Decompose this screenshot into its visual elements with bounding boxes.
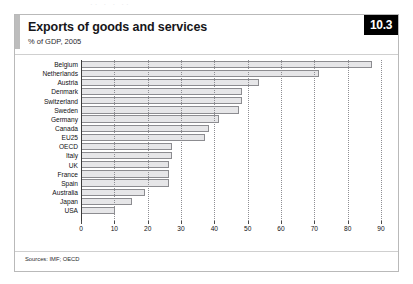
bar-row: [82, 124, 381, 133]
chart-header: Exports of goods and services % of GDP, …: [15, 15, 398, 55]
gridline: [381, 60, 382, 221]
gridline: [114, 60, 115, 221]
tick-mark: [114, 221, 115, 224]
tick-mark: [214, 221, 215, 224]
tick-label: 60: [277, 225, 284, 232]
chart-subtitle: % of GDP, 2005: [28, 37, 81, 46]
category-label: Canada: [15, 124, 81, 133]
source-note: Sources: IMF; OECD: [25, 256, 79, 262]
bar-row: [82, 206, 381, 215]
tick-mark: [381, 221, 382, 224]
bar-row: [82, 78, 381, 87]
bar-row: [82, 151, 381, 160]
bar: [82, 161, 169, 168]
category-axis-labels: BelgiumNetherlandsAustriaDenmarkSwitzerl…: [15, 60, 81, 215]
bar-row: [82, 115, 381, 124]
bar: [82, 70, 319, 77]
bar-row: [82, 87, 381, 96]
tick-label: 40: [211, 225, 218, 232]
page-title: Exports of goods and services: [28, 20, 207, 34]
tick-label: 50: [244, 225, 251, 232]
category-label: Netherlands: [15, 69, 81, 78]
bar-row: [82, 188, 381, 197]
tick-mark: [314, 221, 315, 224]
gridline: [248, 60, 249, 221]
gridline: [148, 60, 149, 221]
tick-label: 0: [79, 225, 83, 232]
category-label: Italy: [15, 151, 81, 160]
category-label: Japan: [15, 197, 81, 206]
chart-footer: Sources: IMF; OECD: [15, 251, 398, 271]
bar: [82, 88, 242, 95]
category-label: Germany: [15, 115, 81, 124]
gridline: [181, 60, 182, 221]
tick-label: 10: [111, 225, 118, 232]
category-label: USA: [15, 206, 81, 215]
chart-figure: Exports of goods and services % of GDP, …: [14, 14, 399, 272]
plot-area: BelgiumNetherlandsAustriaDenmarkSwitzerl…: [15, 55, 398, 240]
tick-label: 80: [344, 225, 351, 232]
figure-number-badge: 10.3: [364, 15, 398, 35]
plot-canvas: [81, 60, 381, 216]
gridline: [314, 60, 315, 221]
gridline: [214, 60, 215, 221]
category-label: France: [15, 170, 81, 179]
category-label: Denmark: [15, 87, 81, 96]
bar-row: [82, 197, 381, 206]
tick-mark: [181, 221, 182, 224]
bar-row: [82, 142, 381, 151]
category-label: OECD: [15, 142, 81, 151]
x-axis-ticks: 0102030405060708090: [81, 221, 381, 235]
tick-label: 90: [377, 225, 384, 232]
top-bleed-text: ·· · · ··: [0, 0, 413, 10]
tick-mark: [248, 221, 249, 224]
category-label: Belgium: [15, 60, 81, 69]
tick-label: 20: [144, 225, 151, 232]
bar: [82, 79, 259, 86]
bar: [82, 97, 242, 104]
category-label: EU25: [15, 133, 81, 142]
bar-row: [82, 133, 381, 142]
bar: [82, 115, 219, 122]
header-accent-bar: [15, 15, 20, 49]
bar-row: [82, 69, 381, 78]
tick-mark: [81, 221, 82, 224]
bar-row: [82, 106, 381, 115]
bar: [82, 125, 209, 132]
tick-label: 70: [311, 225, 318, 232]
bar: [82, 207, 115, 214]
bar: [82, 61, 372, 68]
bar: [82, 198, 132, 205]
gridline: [348, 60, 349, 221]
bar: [82, 134, 205, 141]
bar-row: [82, 60, 381, 69]
category-label: Australia: [15, 188, 81, 197]
bar: [82, 143, 172, 150]
gridline: [281, 60, 282, 221]
bar-row: [82, 170, 381, 179]
category-label: Switzerland: [15, 97, 81, 106]
bar: [82, 179, 169, 186]
tick-mark: [148, 221, 149, 224]
bar-row: [82, 97, 381, 106]
bar: [82, 152, 172, 159]
bar-series: [82, 60, 381, 215]
category-label: Sweden: [15, 106, 81, 115]
bar: [82, 170, 169, 177]
bar-row: [82, 161, 381, 170]
bar-row: [82, 179, 381, 188]
category-label: UK: [15, 161, 81, 170]
tick-label: 30: [177, 225, 184, 232]
tick-mark: [281, 221, 282, 224]
category-label: Austria: [15, 78, 81, 87]
tick-mark: [348, 221, 349, 224]
category-label: Spain: [15, 179, 81, 188]
